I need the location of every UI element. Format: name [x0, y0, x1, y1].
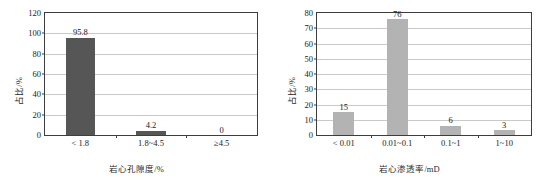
x-axis-labels-porosity: < 1.81.8~4.5≥4.5	[45, 139, 257, 148]
chart-panel-permeability: 占比/% 01020304050607080 157663 < 0.010.01…	[273, 0, 546, 181]
plot-area-porosity: 020406080100120 95.84.20 < 1.81.8~4.5≥4.…	[44, 12, 258, 136]
bar-slot: 6	[424, 13, 478, 135]
bar-value-label: 95.8	[73, 28, 88, 37]
x-tick-label: ≥4.5	[186, 139, 257, 148]
x-tick-label: < 1.8	[45, 139, 116, 148]
y-axis-title-permeability: 占比/%	[285, 77, 297, 104]
x-tick-mark	[478, 135, 479, 138]
bar[interactable]: 95.8	[66, 38, 96, 135]
chart-panel-porosity: 占比/% 020406080100120 95.84.20 < 1.81.8~4…	[0, 0, 273, 181]
y-tick-label: 120	[28, 9, 45, 18]
x-tick-mark	[116, 135, 117, 138]
x-tick-label: < 0.01	[317, 139, 371, 148]
bar-value-label: 4.2	[146, 121, 157, 130]
x-tick-mark	[186, 135, 187, 138]
bar-slot: 0	[186, 13, 257, 135]
plot-area-permeability: 01020304050607080 157663 < 0.010.01~0.10…	[316, 12, 532, 136]
bar-slot: 15	[317, 13, 371, 135]
bar[interactable]: 6	[440, 126, 461, 135]
bar-series-permeability: 157663	[317, 13, 531, 135]
x-tick-label: 1~10	[478, 139, 532, 148]
bar-slot: 95.8	[45, 13, 116, 135]
x-tick-label: 0.1~1	[424, 139, 478, 148]
y-tick-label: 0	[309, 131, 317, 140]
y-tick-label: 0	[37, 131, 45, 140]
x-tick-mark	[424, 135, 425, 138]
bar-slot: 3	[478, 13, 532, 135]
bar-value-label: 15	[339, 103, 348, 112]
x-tick-mark	[371, 135, 372, 138]
bar-value-label: 76	[393, 10, 402, 19]
x-axis-labels-permeability: < 0.010.01~0.10.1~11~10	[317, 139, 531, 148]
bar[interactable]: 15	[333, 112, 354, 135]
y-tick-label: 80	[305, 9, 318, 18]
bar-value-label: 3	[502, 121, 506, 130]
bar[interactable]: 76	[387, 19, 408, 135]
bar-value-label: 6	[449, 116, 453, 125]
x-tick-label: 0.01~0.1	[371, 139, 425, 148]
y-axis-title-porosity: 占比/%	[12, 77, 24, 104]
x-axis-title-porosity: 岩心孔隙度/%	[0, 162, 273, 174]
bar-slot: 4.2	[116, 13, 187, 135]
bar-series-porosity: 95.84.20	[45, 13, 257, 135]
x-axis-title-permeability: 岩心渗透率/mD	[273, 162, 546, 174]
bar-slot: 76	[371, 13, 425, 135]
figure-container: 占比/% 020406080100120 95.84.20 < 1.81.8~4…	[0, 0, 546, 181]
x-tick-label: 1.8~4.5	[116, 139, 187, 148]
bar-value-label: 0	[220, 126, 224, 135]
